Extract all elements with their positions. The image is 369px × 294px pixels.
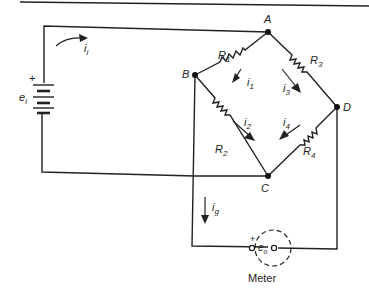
label-i3: i3 [283, 82, 290, 97]
label-i4: i4 [283, 116, 290, 131]
meter-terminal-minus [271, 245, 276, 250]
resistor-r2 [195, 75, 268, 176]
label-i1: i1 [247, 76, 254, 91]
node-label-A: A [263, 13, 271, 25]
battery-icon [33, 85, 54, 113]
resistor-r1 [195, 32, 268, 75]
arrow-ii-icon [56, 38, 82, 46]
meter-terminal-plus [249, 245, 254, 250]
node-label-C: C [261, 182, 269, 194]
wire-source-to-C [42, 114, 268, 176]
label-r3: R3 [310, 54, 323, 69]
resistor-r3 [268, 32, 337, 107]
label-ig: ig [212, 201, 219, 216]
node-label-B: B [182, 68, 189, 80]
wire-B-to-meter [192, 75, 268, 247]
label-r2: R2 [215, 143, 228, 158]
node-label-D: D [343, 101, 351, 113]
label-ii: ii [84, 42, 88, 57]
node-C [265, 173, 271, 179]
label-eo: eo [258, 242, 268, 255]
meter-plus-sign: + [250, 234, 255, 244]
resistor-r4 [268, 107, 337, 176]
wheatstone-bridge-diagram: A B C D R1 R3 R2 R4 ii i1 i3 i2 i4 ig + … [0, 0, 369, 294]
label-r4: R4 [303, 145, 316, 160]
page-top-rule [20, 2, 369, 6]
node-A [265, 29, 271, 35]
label-ei: ei [19, 91, 27, 106]
node-B [192, 72, 198, 78]
battery-plus-sign: + [29, 72, 35, 84]
label-i2: i2 [244, 116, 251, 131]
node-D [334, 104, 340, 110]
meter-label: Meter [248, 272, 276, 284]
